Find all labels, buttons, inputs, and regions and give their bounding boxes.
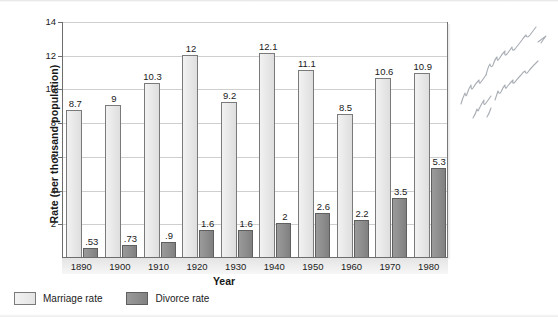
bar-value-label: 5.3 [427, 156, 452, 167]
x-tick-label: 1900 [100, 261, 140, 272]
bar-marriage[interactable]: 12.1 [259, 53, 275, 257]
chart-legend: Marriage rate Divorce rate [14, 292, 209, 305]
bar-divorce[interactable]: 1.6 [199, 230, 214, 257]
bar-divorce[interactable]: 2.6 [315, 213, 330, 257]
handwritten-margin-note [455, 20, 558, 135]
bar-value-label: 1.6 [234, 218, 259, 229]
bar-divorce[interactable]: 5.3 [431, 168, 446, 257]
bar-value-label: 10.3 [140, 71, 166, 82]
bar-divorce[interactable]: 3.5 [392, 198, 407, 257]
bar-group: 11.12.6 [298, 22, 330, 257]
x-tick-label: 1890 [61, 261, 101, 272]
x-tick-label: 1950 [293, 261, 333, 272]
bar-marriage[interactable]: 8.7 [66, 110, 82, 257]
x-tick-label: 1980 [409, 261, 449, 272]
x-tick-label: 1930 [216, 261, 256, 272]
bar-value-label: 10.9 [410, 61, 436, 72]
divorce-swatch-icon [126, 292, 148, 305]
bar-value-label: 8.7 [62, 98, 88, 109]
y-tick-label: 4 [22, 185, 56, 196]
bar-group: 10.63.5 [375, 22, 407, 257]
bar-value-label: 12.1 [255, 41, 281, 52]
y-tick-label: 8 [22, 117, 56, 128]
bar-value-label: 2.2 [350, 208, 375, 219]
bar-value-label: 1.6 [195, 218, 220, 229]
bar-divorce[interactable]: 1.6 [238, 230, 253, 257]
bar-divorce[interactable]: .73 [122, 245, 137, 257]
bar-value-label: 9.2 [217, 90, 243, 101]
plot-area: 8.7.539.7310.3.9121.69.21.612.1211.12.68… [62, 22, 448, 258]
bar-marriage[interactable]: 11.1 [298, 70, 314, 257]
bar-value-label: 9 [101, 93, 127, 104]
bar-divorce[interactable]: .53 [83, 248, 98, 257]
x-tick-label: 1960 [332, 261, 372, 272]
bar-value-label: 11.1 [294, 58, 320, 69]
bar-value-label: 10.6 [371, 66, 397, 77]
y-tick-label: 10 [22, 83, 56, 94]
legend-label-divorce: Divorce rate [155, 293, 209, 304]
bar-group: 10.3.9 [144, 22, 176, 257]
bar-divorce[interactable]: 2.2 [354, 220, 369, 257]
legend-label-marriage: Marriage rate [43, 293, 102, 304]
x-axis-title: Year [0, 275, 448, 287]
bar-value-label: 12 [178, 43, 204, 54]
x-tick-label: 1940 [254, 261, 294, 272]
bar-value-label: 3.5 [388, 186, 413, 197]
bar-group: 10.95.3 [414, 22, 446, 257]
x-tick-label: 1970 [370, 261, 410, 272]
bar-marriage[interactable]: 8.5 [337, 114, 353, 257]
x-tick-label: 1920 [177, 261, 217, 272]
bar-marriage[interactable]: 10.6 [375, 78, 391, 257]
bar-value-label: .73 [118, 233, 143, 244]
marriage-swatch-icon [14, 292, 36, 305]
bar-value-label: 2.6 [311, 201, 336, 212]
chart-figure: Rate (per thousand population) 246810121… [0, 0, 558, 317]
bar-group: 8.52.2 [337, 22, 369, 257]
bar-divorce[interactable]: 2 [276, 223, 291, 257]
bar-group: 9.73 [105, 22, 137, 257]
x-tick-label: 1910 [139, 261, 179, 272]
bar-group: 8.7.53 [66, 22, 98, 257]
y-tick-label: 6 [22, 151, 56, 162]
bar-divorce[interactable]: .9 [161, 242, 176, 257]
bar-value-label: .9 [157, 230, 182, 241]
bar-marriage[interactable]: 9.2 [221, 102, 237, 257]
bar-group: 121.6 [182, 22, 214, 257]
bar-value-label: .53 [79, 236, 104, 247]
scan-edge-top [0, 0, 558, 2]
bar-group: 9.21.6 [221, 22, 253, 257]
bar-value-label: 8.5 [333, 102, 359, 113]
bar-value-label: 2 [272, 211, 297, 222]
legend-item-marriage-rate: Marriage rate [14, 292, 102, 305]
y-tick-label: 14 [22, 16, 56, 27]
y-tick-label: 2 [22, 218, 56, 229]
legend-item-divorce-rate: Divorce rate [126, 292, 209, 305]
bar-group: 12.12 [259, 22, 291, 257]
y-tick-label: 12 [22, 50, 56, 61]
